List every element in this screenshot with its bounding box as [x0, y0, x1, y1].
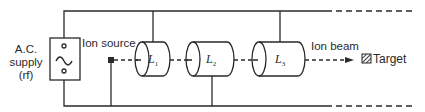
target-icon — [362, 54, 371, 63]
lens-3-letter: L — [275, 52, 282, 66]
lens-1-face — [135, 42, 149, 76]
terminal-bottom — [62, 69, 66, 73]
lens-3-face — [252, 42, 266, 76]
ac-supply-label: A.C. supply (rf) — [4, 43, 48, 82]
lens-2-letter: L — [206, 52, 213, 66]
lens-3-label: L3 — [275, 53, 285, 68]
supply-label-line1: A.C. — [4, 43, 48, 56]
lens-2-sub: 2 — [213, 60, 217, 68]
beam-arrow-icon — [345, 57, 354, 63]
ion-source-icon — [108, 57, 114, 63]
supply-label-line2: supply — [4, 56, 48, 69]
lens-3-sub: 3 — [282, 60, 286, 68]
lens-1-label: L1 — [148, 53, 158, 68]
supply-label-line3: (rf) — [4, 69, 48, 82]
lens-1-sub: 1 — [155, 60, 159, 68]
ion-source-label: Ion source — [82, 38, 136, 50]
ion-beam-label: Ion beam — [311, 41, 359, 53]
sine-wave-icon — [56, 57, 72, 65]
top-wire — [64, 11, 332, 38]
target-label: Target — [373, 53, 406, 65]
terminal-top — [62, 44, 66, 48]
lens-2-label: L2 — [206, 53, 216, 68]
lens-1-letter: L — [148, 52, 155, 66]
bottom-wire — [64, 80, 332, 106]
lens-2-face — [186, 42, 200, 76]
